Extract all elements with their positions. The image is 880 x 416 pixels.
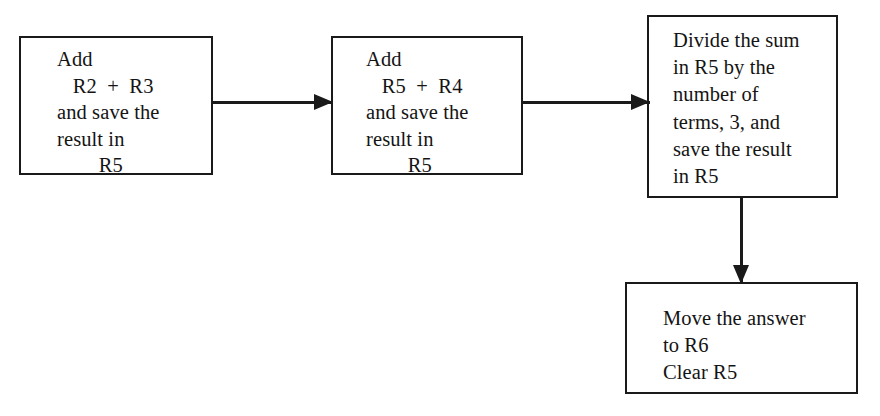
arrow-right-icon <box>314 94 333 110</box>
flowchart-node-move-answer[interactable]: Move the answer to R6 Clear R5 <box>625 282 858 394</box>
node-label-add-r5-r4: Add R5 + R4 and save the result in R5 <box>366 46 469 179</box>
flowchart-node-divide-sum[interactable]: Divide the sum in R5 by the number of te… <box>647 15 838 198</box>
flowchart-canvas: Add R2 + R3 and save the result in R5 Ad… <box>0 0 880 416</box>
flowchart-node-add-r2-r3[interactable]: Add R2 + R3 and save the result in R5 <box>19 36 213 175</box>
flowchart-node-add-r5-r4[interactable]: Add R5 + R4 and save the result in R5 <box>331 36 523 175</box>
arrow-right-icon <box>631 94 650 110</box>
arrow-down-icon <box>733 265 749 284</box>
node-label-move-answer: Move the answer to R6 Clear R5 <box>663 305 806 387</box>
node-label-add-r2-r3: Add R2 + R3 and save the result in R5 <box>57 46 160 179</box>
node-label-divide-sum: Divide the sum in R5 by the number of te… <box>673 27 800 190</box>
